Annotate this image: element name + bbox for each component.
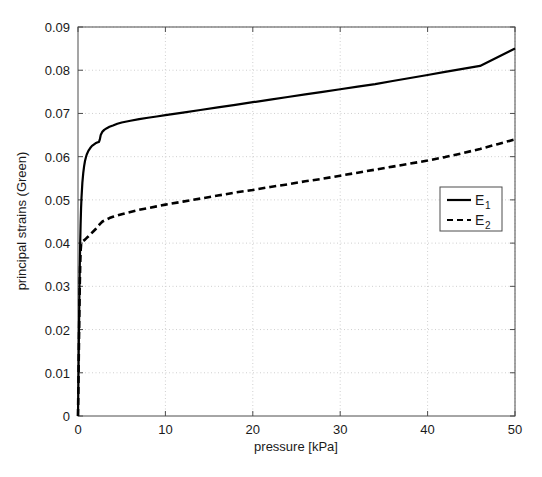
x-axis-label: pressure [kPa] [254, 439, 338, 454]
chart-legend[interactable]: E 1 E 2 [440, 187, 502, 231]
legend-subscript-e2: 2 [485, 220, 491, 231]
legend-subscript-e1: 1 [485, 200, 491, 211]
y-axis-label: principal strains (Green) [14, 152, 29, 291]
y-tick-label: 0.04 [45, 236, 70, 251]
y-tick-label: 0.08 [45, 63, 70, 78]
chart-figure: 01020304050 00.010.020.030.040.050.060.0… [0, 0, 542, 477]
legend-box [440, 187, 502, 231]
principal-strains-plot: 01020304050 00.010.020.030.040.050.060.0… [0, 0, 542, 477]
x-tick-label: 30 [333, 422, 347, 437]
x-tick-label: 0 [74, 422, 81, 437]
legend-label-e2: E [475, 212, 484, 228]
x-tick-label: 50 [508, 422, 522, 437]
x-tick-label: 10 [158, 422, 172, 437]
y-tick-label: 0.09 [45, 20, 70, 35]
y-tick-label: 0.02 [45, 323, 70, 338]
y-tick-label: 0.03 [45, 279, 70, 294]
y-tick-label: 0.01 [45, 366, 70, 381]
y-tick-label: 0.07 [45, 106, 70, 121]
x-tick-label: 20 [246, 422, 260, 437]
y-tick-label: 0.06 [45, 150, 70, 165]
y-tick-label: 0 [63, 409, 70, 424]
y-tick-label: 0.05 [45, 193, 70, 208]
x-tick-label: 40 [420, 422, 434, 437]
legend-label-e1: E [475, 192, 484, 208]
